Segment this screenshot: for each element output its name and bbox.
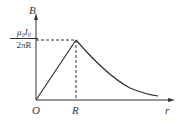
peak-value-label: μ₀I₀ 2πR bbox=[10, 28, 38, 50]
outside-inverse-curve bbox=[76, 40, 158, 96]
inside-linear-segment bbox=[36, 40, 76, 100]
x-axis-label: r bbox=[165, 105, 169, 116]
x-axis-arrow-icon bbox=[168, 98, 175, 102]
r-tick-label: R bbox=[72, 105, 79, 116]
origin-label: O bbox=[32, 105, 40, 116]
peak-numerator: μ₀I₀ bbox=[10, 28, 38, 39]
chart-canvas bbox=[0, 0, 187, 124]
peak-denominator: 2πR bbox=[10, 39, 38, 50]
y-axis-label: B bbox=[29, 5, 36, 16]
